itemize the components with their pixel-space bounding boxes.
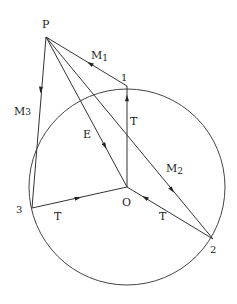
line-P-1 <box>46 37 127 86</box>
line-P-O <box>46 37 127 187</box>
line-P-3 <box>32 37 46 208</box>
label-E: E <box>83 128 91 141</box>
label-P: P <box>42 18 50 31</box>
label-1: 1 <box>121 72 127 83</box>
line-O-2 <box>127 187 213 239</box>
label-M3: M3 <box>14 105 31 118</box>
label-M1: M1 <box>91 49 108 63</box>
label-T-left: T <box>54 210 62 223</box>
label-M2: M2 <box>166 162 183 176</box>
label-T-vertical: T <box>130 115 138 128</box>
label-2: 2 <box>210 244 216 255</box>
vector-diagram: P 1 O 2 3 M1 M3 M2 E T T T <box>0 0 237 304</box>
label-O: O <box>122 196 131 209</box>
label-T-right: T <box>159 210 167 223</box>
line-O-3 <box>32 187 127 208</box>
label-3: 3 <box>16 204 22 215</box>
